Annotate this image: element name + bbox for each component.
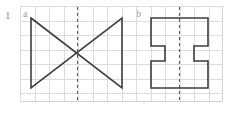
figure-outline-a — [31, 18, 122, 88]
symmetry-axes — [77, 7, 180, 100]
worksheet-figure-canvas: 1 a b — [0, 0, 229, 114]
figure-outlines — [31, 18, 208, 88]
figures-svg — [0, 0, 229, 114]
figure-outline-b — [151, 18, 208, 88]
